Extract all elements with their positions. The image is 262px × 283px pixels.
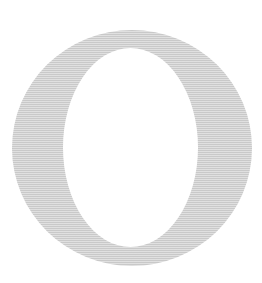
glyph-stage bbox=[0, 0, 262, 283]
image-canvas: O bbox=[0, 0, 262, 283]
letter-o-shape bbox=[12, 30, 252, 266]
letter-o-glyph bbox=[0, 0, 262, 283]
